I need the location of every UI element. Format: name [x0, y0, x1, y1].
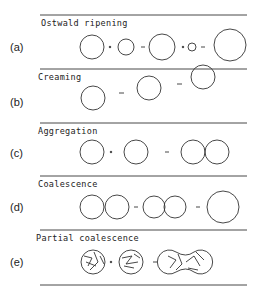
- panel-title-a: Ostwald ripening: [41, 18, 128, 28]
- diagram-canvas: [0, 0, 259, 294]
- panel-label-b: (b): [10, 96, 23, 108]
- panel-label-a: (a): [10, 41, 23, 53]
- panel-title-b: Creaming: [38, 72, 81, 82]
- panel-e-droplets: [81, 250, 213, 274]
- panel-label-d: (d): [10, 201, 23, 213]
- panel-title-d: Coalescence: [38, 179, 98, 189]
- panel-title-c: Aggregation: [38, 126, 98, 136]
- panel-a-droplets: [80, 29, 246, 61]
- panel-label-e: (e): [10, 256, 23, 268]
- panel-label-c: (c): [10, 147, 23, 159]
- panel-d-droplets: [80, 191, 239, 223]
- panel-c-droplets: [80, 140, 229, 164]
- panel-title-e: Partial coalescence: [36, 233, 139, 243]
- panel-b-droplets: [81, 65, 215, 110]
